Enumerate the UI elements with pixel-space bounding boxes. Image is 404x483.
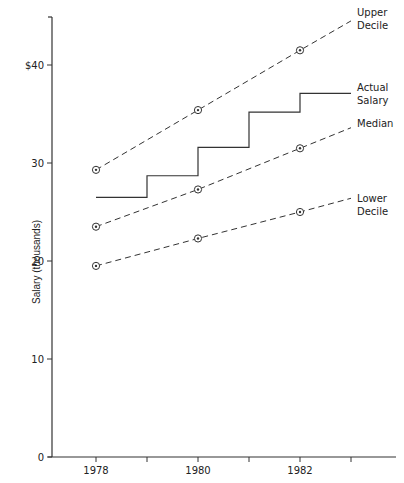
median-marker-dot (197, 188, 199, 190)
lower-decile-line (96, 198, 351, 266)
upper-decile-label: Upper (357, 7, 388, 18)
actual-salary-label: Salary (357, 95, 388, 106)
lower-decile-marker-dot (299, 211, 301, 213)
upper-decile-label: Decile (357, 20, 388, 31)
y-tick-label: 30 (31, 158, 44, 169)
lower-decile-label: Decile (357, 206, 388, 217)
median-label: Median (357, 118, 393, 129)
axes: 0102030$40197819801982 (25, 17, 396, 476)
median-marker-dot (95, 226, 97, 228)
median-line (96, 128, 351, 227)
salary-chart: 0102030$40197819801982 UpperDecileActual… (0, 0, 404, 483)
upper-decile-marker-dot (299, 49, 301, 51)
x-tick-label: 1982 (287, 465, 312, 476)
upper-decile-marker-dot (95, 169, 97, 171)
median-marker-dot (299, 147, 301, 149)
x-tick-label: 1980 (185, 465, 210, 476)
actual-salary-line (96, 93, 351, 197)
y-tick-label: 0 (38, 452, 44, 463)
y-tick-label: $40 (25, 60, 44, 71)
lower-decile-label: Lower (357, 193, 388, 204)
y-axis-title: Salary (thousands) (31, 220, 42, 304)
lower-decile-marker-dot (197, 237, 199, 239)
series-labels: UpperDecileActualSalaryMedianLowerDecile (357, 7, 393, 217)
y-tick-label: 10 (31, 354, 44, 365)
lower-decile-marker-dot (95, 265, 97, 267)
x-tick-label: 1978 (83, 465, 108, 476)
actual-salary-label: Actual (357, 82, 388, 93)
series-layer (92, 21, 351, 270)
upper-decile-marker-dot (197, 109, 199, 111)
